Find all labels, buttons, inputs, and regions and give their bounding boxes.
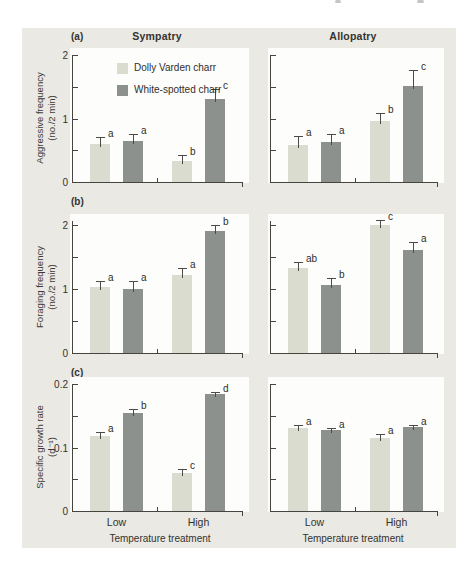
y-tick (73, 353, 78, 354)
error-bar-cap (178, 155, 187, 156)
y-tick (271, 448, 276, 449)
x-category-label: Low (107, 516, 126, 528)
error-bar (331, 134, 332, 145)
y-tick (73, 384, 78, 385)
bar-white-spotted-charr-low (123, 289, 143, 353)
bar-white-spotted-charr-high (205, 99, 225, 182)
bar-dolly-varden-charr-high (370, 121, 390, 182)
x-axis-line (270, 182, 438, 183)
significance-letter: d (223, 383, 229, 394)
y-axis-spine (270, 221, 271, 354)
significance-letter: a (339, 419, 345, 430)
legend-label: Dolly Varden charr (134, 62, 216, 73)
error-bar (380, 434, 381, 441)
error-bar-cap (376, 434, 385, 435)
y-tick-label: 2 (44, 220, 68, 231)
y-tick (271, 257, 276, 258)
error-bar (182, 268, 183, 278)
x-category-label: High (386, 516, 408, 528)
x-tick (157, 349, 158, 353)
y-tick (73, 87, 78, 88)
bar-dolly-varden-charr-low (288, 145, 308, 182)
error-bar (133, 134, 134, 143)
x-tick (242, 182, 243, 187)
y-tick-label: 0 (44, 177, 68, 188)
error-bar-cap (178, 469, 187, 470)
y-axis-spine (72, 221, 73, 354)
x-axis-title: Temperature treatment (109, 533, 210, 544)
bar-dolly-varden-charr-high (172, 473, 192, 511)
significance-letter: a (141, 272, 147, 283)
bar-white-spotted-charr-low (321, 430, 341, 511)
x-tick (242, 353, 243, 358)
y-tick (73, 479, 78, 480)
error-bar-cap (294, 425, 303, 426)
y-tick (271, 150, 276, 151)
significance-letter: a (141, 125, 147, 136)
error-bar (331, 278, 332, 288)
x-axis-line (72, 182, 243, 183)
x-axis-line (270, 511, 438, 512)
bar-dolly-varden-charr-low (90, 436, 110, 511)
significance-letter: b (190, 146, 196, 157)
bar-white-spotted-charr-low (321, 285, 341, 353)
bar-white-spotted-charr-low (321, 142, 341, 182)
y-tick (271, 55, 276, 56)
bar-dolly-varden-charr-high (370, 225, 390, 353)
bar-white-spotted-charr-high (205, 394, 225, 511)
error-bar (298, 262, 299, 271)
bar-dolly-varden-charr-high (172, 161, 192, 182)
y-tick (73, 257, 78, 258)
error-bar (100, 137, 101, 147)
y-tick (73, 55, 78, 56)
error-bar-cap (409, 242, 418, 243)
error-bar-cap (327, 428, 336, 429)
y-tick (73, 182, 78, 183)
error-bar-cap (96, 137, 105, 138)
bar-white-spotted-charr-low (123, 141, 143, 182)
legend-swatch-dolly-varden-charr (117, 63, 128, 74)
significance-letter: a (306, 416, 312, 427)
error-bar (133, 409, 134, 416)
error-bar-cap (327, 134, 336, 135)
y-tick (271, 353, 276, 354)
bar-white-spotted-charr-high (403, 86, 423, 182)
bar-dolly-varden-charr-low (90, 144, 110, 182)
y-tick (271, 321, 276, 322)
x-tick (355, 178, 356, 182)
y-tick (271, 384, 276, 385)
panel-letter-b: (b) (71, 196, 84, 207)
error-bar-cap (129, 409, 138, 410)
y-tick (73, 511, 78, 512)
y-tick-label: 0 (44, 506, 68, 517)
y-tick (73, 448, 78, 449)
significance-letter: a (388, 425, 394, 436)
figure-page: Sympatry Allopatry (a) (b) (c) Aggressiv… (0, 0, 466, 565)
significance-letter: a (190, 259, 196, 270)
y-tick-label: 0.2 (44, 379, 68, 390)
error-bar-cap (327, 278, 336, 279)
error-bar (182, 155, 183, 164)
bar-white-spotted-charr-low (123, 413, 143, 511)
error-bar (100, 281, 101, 290)
error-bar-cap (294, 262, 303, 263)
significance-letter: ab (306, 253, 317, 264)
bar-white-spotted-charr-high (403, 427, 423, 511)
significance-letter: c (223, 80, 228, 91)
error-bar-cap (129, 134, 138, 135)
error-bar-cap (96, 432, 105, 433)
y-tick (73, 289, 78, 290)
error-bar (298, 136, 299, 147)
error-bar-cap (294, 136, 303, 137)
significance-letter: a (306, 127, 312, 138)
x-axis-title: Temperature treatment (302, 533, 403, 544)
error-bar-cap (409, 425, 418, 426)
error-bar (413, 242, 414, 253)
error-bar-cap (409, 70, 418, 71)
y-tick (271, 479, 276, 480)
significance-letter: b (388, 104, 394, 115)
y-tick (271, 416, 276, 417)
y-tick (271, 225, 276, 226)
significance-letter: c (388, 211, 393, 222)
x-tick (437, 353, 438, 358)
